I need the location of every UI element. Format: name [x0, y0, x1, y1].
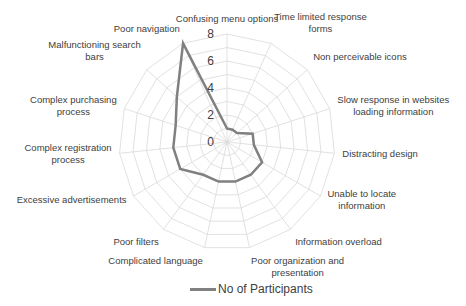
category-label: Slow response in websitesloading informa… [337, 94, 449, 117]
category-label: Information overload [295, 236, 382, 247]
category-label: Poor navigation [114, 23, 180, 34]
category-label: Complex registrationprocess [25, 142, 112, 165]
tick-label: 4 [207, 81, 214, 95]
grid-spoke [227, 70, 307, 142]
category-label: Distracting design [342, 148, 418, 159]
tick-label: 6 [207, 54, 214, 68]
radial-tick-labels: 02468 [207, 27, 214, 149]
category-label: Complex purchasingprocess [30, 94, 117, 117]
category-label: Unable to locateinformation [327, 188, 396, 211]
legend-label: No of Participants [218, 282, 313, 296]
legend-line-icon [190, 288, 216, 291]
category-label: Malfunctioning searchbars [48, 39, 140, 62]
radar-chart: 02468 Confusing menu optionsTime limited… [0, 0, 466, 306]
category-label: Confusing menu options [176, 13, 279, 24]
axis-category-labels: Confusing menu optionsTime limited respo… [17, 11, 450, 278]
category-label: Time limited responseforms [274, 11, 367, 34]
tick-label: 8 [207, 27, 214, 41]
series-no-of-participants [173, 43, 262, 181]
category-label: Excessive advertisements [17, 194, 127, 205]
category-label: Non perceivable icons [313, 51, 407, 62]
category-label: Complicated language [108, 255, 203, 266]
tick-label: 2 [207, 108, 214, 122]
tick-label: 0 [207, 135, 214, 149]
radar-grid [120, 34, 335, 248]
legend: No of Participants [190, 282, 313, 296]
grid-spoke [227, 109, 330, 142]
category-label: Poor filters [113, 236, 159, 247]
series-line [173, 43, 262, 181]
category-label: Poor organization andpresentation [251, 255, 344, 278]
